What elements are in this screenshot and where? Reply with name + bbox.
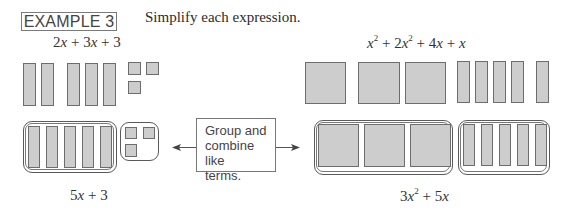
term: + 5 — [419, 188, 442, 204]
x-bar-tile — [23, 63, 36, 106]
coef: 3 — [400, 188, 408, 204]
left-expression: 2x + 3x + 3 — [53, 34, 121, 51]
exponent: 2 — [408, 33, 413, 43]
x-bar-tile — [535, 124, 547, 166]
term: + 4 — [413, 35, 436, 51]
x-bar-tile — [67, 63, 80, 106]
x-bar-tile — [481, 124, 493, 166]
note-line: Group and — [205, 123, 275, 138]
coef: 5 — [70, 187, 78, 203]
term: + 2 — [378, 35, 401, 51]
x-bar-tile — [536, 61, 549, 103]
example-label: EXAMPLE 3 — [21, 12, 117, 31]
x-bar-tile — [28, 126, 40, 168]
unit-tile — [128, 62, 141, 75]
x-bar-tile — [64, 126, 76, 168]
term: + 3 — [67, 34, 90, 50]
coef: 2 — [53, 34, 61, 50]
var: x — [367, 35, 374, 51]
unit-tile — [143, 127, 155, 139]
instruction-note: Group and combine like terms. — [196, 118, 276, 172]
x-bar-tile — [46, 126, 58, 168]
x-squared-tile — [318, 124, 359, 167]
x-bar-tile — [517, 124, 529, 166]
instruction-heading: Simplify each expression. — [145, 9, 300, 26]
x-squared-tile — [410, 124, 451, 167]
x-bar-tile — [100, 126, 112, 168]
x-squared-tile — [364, 124, 405, 167]
unit-tile — [146, 62, 159, 75]
x-bar-tile — [499, 124, 511, 166]
note-line: terms. — [205, 168, 275, 183]
unit-tile — [128, 81, 141, 94]
x-bar-tile — [511, 61, 524, 103]
term: + 3 — [97, 34, 120, 50]
x-bar-tile — [85, 63, 98, 106]
x-squared-tile — [358, 62, 400, 104]
arrow-right-icon — [291, 143, 300, 152]
note-line: combine like — [205, 138, 275, 168]
x-squared-tile — [405, 62, 446, 104]
right-expression: x2 + 2x2 + 4x + x — [367, 34, 466, 52]
right-result: 3x2 + 5x — [400, 187, 449, 205]
x-bar-tile — [103, 63, 116, 106]
x-bar-tile — [82, 126, 94, 168]
unit-tile — [125, 127, 137, 139]
left-result: 5x + 3 — [70, 187, 108, 204]
x-bar-tile — [475, 61, 488, 103]
term: + — [443, 35, 459, 51]
var: x — [459, 35, 466, 51]
x-bar-tile — [493, 61, 506, 103]
x-bar-tile — [463, 124, 475, 166]
term: + 3 — [84, 187, 107, 203]
exponent: 2 — [414, 186, 419, 196]
unit-tile — [125, 144, 137, 157]
var: x — [436, 35, 443, 51]
x-squared-tile — [305, 62, 346, 104]
x-bar-tile — [457, 61, 470, 103]
arrow-left-icon — [172, 143, 181, 152]
var: x — [442, 188, 449, 204]
exponent: 2 — [374, 33, 379, 43]
x-bar-tile — [41, 63, 54, 106]
